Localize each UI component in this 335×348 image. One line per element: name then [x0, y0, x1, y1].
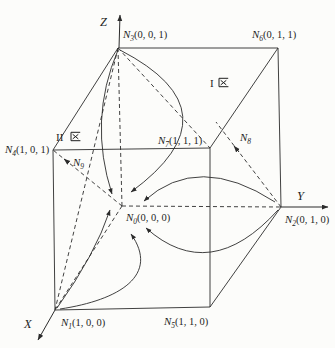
region-2-numeral: II: [56, 131, 64, 143]
diagonal-n2-n8: [216, 122, 281, 207]
diagonal-n0-n9: [53, 150, 122, 206]
x-axis-label: X: [23, 317, 33, 331]
n8-direction-arrow: [234, 146, 239, 152]
vertex-label-n3: N3(0, 0, 1): [122, 28, 168, 43]
spare-node-label-n8: N8: [239, 131, 251, 146]
vertex-label-n6: N6(0, 1, 1): [251, 28, 297, 43]
edge-n4-n7: [53, 148, 210, 150]
edge-n6-n2: [278, 48, 281, 207]
routing-arc-n3-right: [120, 50, 183, 192]
region-label-2: II: [56, 131, 80, 143]
edge-n1-n5: [55, 307, 210, 310]
region-label-1: I: [210, 77, 228, 89]
vertex-label-n0: N0(0, 0, 0): [125, 211, 171, 226]
coordinate-axes: [38, 15, 328, 340]
x-axis-line: [38, 310, 55, 340]
vertex-label-n7: N7(1, 1, 1): [157, 134, 203, 149]
vertex-label-n1: N1(1, 0, 0): [60, 316, 106, 331]
region-char-icon: [219, 78, 228, 86]
vertex-label-n5: N5(1, 1, 0): [163, 315, 209, 330]
vertex-label-n4: N4(1, 0, 1): [4, 143, 50, 158]
edge-n4-n1: [53, 150, 55, 310]
edge-n0-n2: [122, 206, 281, 207]
region-1-numeral: I: [210, 77, 214, 89]
routing-arc-n2-upper: [144, 177, 275, 202]
routing-arc-n1-outer: [60, 234, 141, 309]
y-axis-label: Y: [297, 189, 306, 203]
routing-arc-n3-left: [101, 50, 118, 194]
region-char-icon: [71, 132, 80, 140]
edge-n3-n0: [118, 48, 122, 206]
routing-arc-n1-inner: [57, 210, 110, 308]
diagonal-n3-n7: [118, 48, 210, 148]
spare-node-label-n9: N9: [72, 156, 84, 171]
n9-direction-arrow: [64, 159, 69, 163]
z-axis-label: Z: [100, 15, 108, 29]
z-axis-line: [119, 15, 120, 48]
cube-visible-edges: [53, 48, 281, 310]
cube-hidden-edges: [53, 48, 281, 310]
vertex-label-n2: N2(0, 1, 0): [284, 213, 330, 228]
vertex-labels: N3(0, 0, 1) N6(0, 1, 1) N4(1, 0, 1) N7(1…: [4, 28, 330, 331]
edge-n5-n2: [210, 207, 281, 307]
diagonal-n3-n1: [55, 48, 118, 310]
figure-canvas: Z Y X I II N3(0, 0, 1) N6(0, 1, 1) N4(1,…: [0, 0, 335, 348]
hypercube-figure: Z Y X I II N3(0, 0, 1) N6(0, 1, 1) N4(1,…: [0, 0, 335, 348]
axis-labels: Z Y X: [23, 15, 306, 331]
routing-arcs: [57, 50, 278, 309]
